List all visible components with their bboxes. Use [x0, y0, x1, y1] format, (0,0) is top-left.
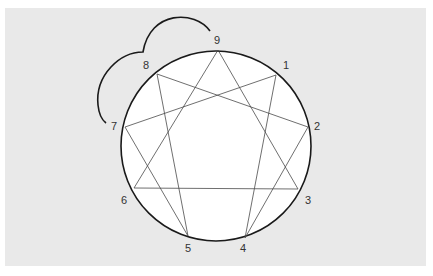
point-label-8: 8 — [143, 59, 149, 71]
point-label-7: 7 — [111, 120, 117, 132]
enneagram-circle — [121, 51, 311, 241]
point-label-3: 3 — [305, 194, 311, 206]
point-label-2: 2 — [314, 120, 320, 132]
point-label-5: 5 — [185, 242, 191, 254]
enneagram-diagram: 912345678 — [0, 0, 433, 276]
point-label-9: 9 — [214, 34, 220, 46]
point-label-6: 6 — [121, 194, 127, 206]
point-label-4: 4 — [240, 242, 246, 254]
point-label-1: 1 — [283, 59, 289, 71]
